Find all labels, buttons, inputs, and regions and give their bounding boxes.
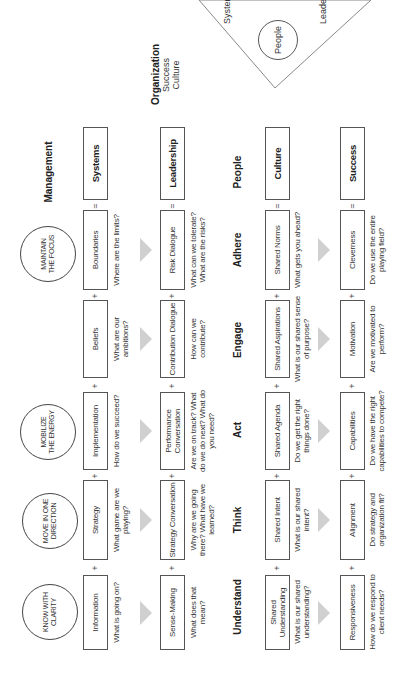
equals-operator: = [90, 200, 100, 212]
organization-line-success: Success [161, 45, 171, 105]
question-performance-conversation: Are we on track? What do we do next? Wha… [189, 390, 216, 472]
question-strategy-conversation: Why are we going there? What have we lea… [189, 480, 216, 560]
result-label: Success [348, 145, 357, 182]
question-shared-norms: What gets you ahead? [293, 210, 302, 290]
cell-label: Cleverness [348, 231, 357, 269]
cell-label: Information [91, 594, 100, 632]
cell-cleverness: Cleverness [340, 210, 365, 290]
cell-label: Shared Understanding [269, 576, 287, 649]
down-arrow-icon [140, 601, 154, 625]
cell-shared-understanding: Shared Understanding [265, 575, 290, 650]
plus-operator: + [90, 290, 100, 302]
down-arrow-icon [140, 419, 154, 443]
verb-understand: Understand [232, 562, 243, 652]
cell-label: Boundaries [91, 231, 100, 269]
equals-operator: = [167, 200, 177, 212]
plus-operator: + [272, 290, 282, 302]
cell-label: Implementation [91, 405, 100, 457]
diagram-canvas: Know with clarity Move in one direction … [0, 0, 413, 700]
result-success: Success [340, 127, 365, 200]
down-arrow-icon [318, 419, 332, 443]
cell-label: Contribution Dialogue [168, 303, 177, 376]
cell-label: Motivation [348, 322, 357, 356]
organization-line-culture: Culture [171, 45, 181, 105]
plus-operator: + [90, 380, 100, 392]
question-capabilities: Do we have the right capabilities to com… [368, 390, 386, 472]
verb-think: Think [232, 480, 243, 560]
down-arrow-icon [140, 327, 154, 351]
question-implementation: How do we succeed? [112, 387, 121, 475]
equals-operator: = [272, 200, 282, 212]
cell-label: Alignment [348, 503, 357, 537]
cell-label: Shared Norms [273, 225, 282, 274]
plus-operator: + [167, 562, 177, 574]
plus-operator: + [347, 380, 357, 392]
question-alignment: Do strategy and organization fit? [368, 480, 386, 560]
cell-boundaries: Boundaries [83, 210, 108, 290]
cell-label: Risk Dialogue [168, 227, 177, 274]
cell-label: Shared Aspirations [273, 307, 282, 371]
cell-responsiveness: Responsiveness [340, 575, 365, 650]
circle-maintain-the-focus: Maintain the focus [20, 226, 76, 282]
cell-implementation: Implementation [83, 392, 108, 470]
down-arrow-icon [318, 508, 332, 532]
plus-operator: + [272, 380, 282, 392]
cell-capabilities: Capabilities [340, 392, 365, 470]
question-risk-dialogue: What can we tolerate? What are the risks… [189, 208, 207, 292]
plus-operator: + [347, 470, 357, 482]
plus-operator: + [90, 470, 100, 482]
cell-label: Shared Agenda [273, 405, 282, 458]
question-responsiveness: How do we respond to client needs? [368, 568, 386, 656]
result-leadership: Leadership [160, 127, 185, 200]
question-information: What is going on? [112, 575, 121, 650]
question-sense-making: What does that mean? [189, 575, 207, 650]
cell-shared-aspirations: Shared Aspirations [265, 300, 290, 378]
circle-know-with-clarity: Know with clarity [22, 584, 78, 640]
plus-operator: + [347, 290, 357, 302]
organization-title: Organization [150, 45, 161, 105]
down-arrow-icon [140, 238, 154, 262]
question-contribution-dialogue: How can we contribute? [189, 300, 207, 378]
cell-shared-agenda: Shared Agenda [265, 392, 290, 470]
question-boundaries: Where are the limits? [112, 210, 121, 290]
circle-move-in-one-direction: Move in one direction [22, 493, 78, 549]
cell-performance-conversation: Performance Conversation [160, 392, 185, 470]
question-shared-intent: What is our shared intent? [293, 480, 311, 560]
result-culture: Culture [265, 127, 290, 200]
people-label: People [273, 26, 283, 54]
circle-mobilize-the-energy: Mobilize the energy [20, 404, 76, 460]
circle-label: Know with clarity [42, 589, 58, 635]
result-label: Systems [91, 145, 100, 183]
cell-label: Strategy [91, 506, 100, 534]
cell-motivation: Motivation [340, 300, 365, 378]
circle-label: Mobilize the energy [40, 409, 56, 455]
cell-contribution-dialogue: Contribution Dialogue [160, 300, 185, 378]
cell-label: Strategy Conversation [168, 483, 177, 558]
cell-label: Beliefs [91, 328, 100, 351]
verb-adhere: Adhere [232, 210, 243, 290]
question-strategy: What game are we playing? [112, 480, 130, 560]
down-arrow-icon [318, 327, 332, 351]
cell-label: Shared Intent [273, 497, 282, 542]
plus-operator: + [90, 562, 100, 574]
question-shared-agenda: Do we get the right things done? [293, 392, 311, 470]
cell-risk-dialogue: Risk Dialogue [160, 210, 185, 290]
cell-label: Responsiveness [348, 585, 357, 641]
cell-label: Sense-Making [168, 588, 177, 637]
cell-information: Information [83, 575, 108, 650]
verb-act: Act [232, 390, 243, 470]
question-shared-aspirations: What is our shared sense of purpose? [293, 296, 311, 382]
verb-engage: Engage [232, 300, 243, 380]
cell-sense-making: Sense-Making [160, 575, 185, 650]
down-arrow-icon [140, 508, 154, 532]
equals-operator: = [347, 200, 357, 212]
question-motivation: Are we motivated to perform? [368, 296, 386, 382]
cell-shared-intent: Shared Intent [265, 480, 290, 560]
label-management: Management [43, 132, 54, 212]
plus-operator: + [167, 470, 177, 482]
result-label: Culture [273, 148, 282, 180]
cell-label: Capabilities [348, 412, 357, 451]
circle-label: Maintain the focus [40, 231, 56, 277]
circle-label: Move in one direction [42, 498, 58, 544]
result-label: Leadership [168, 139, 177, 188]
